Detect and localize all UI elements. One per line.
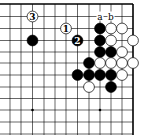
white-stone	[128, 58, 139, 69]
black-stone	[95, 35, 106, 46]
move-number: 1	[63, 24, 69, 34]
go-board-diagram: 312 ab	[0, 0, 142, 135]
black-stone	[72, 70, 83, 81]
black-stone	[95, 23, 106, 34]
black-stone	[84, 58, 95, 69]
move-number: 2	[74, 36, 80, 46]
white-stone	[106, 35, 117, 46]
white-stone	[117, 23, 128, 34]
star-point	[99, 109, 102, 112]
black-stone	[106, 82, 117, 93]
move-number: 3	[29, 12, 35, 22]
black-stone	[106, 47, 117, 58]
white-stone	[117, 47, 128, 58]
white-stone	[84, 82, 95, 93]
black-stone	[27, 35, 38, 46]
star-point	[31, 109, 34, 112]
point-label-b: b	[108, 12, 114, 22]
white-stone: 1	[61, 23, 72, 34]
black-stone	[106, 70, 117, 81]
black-stone	[95, 47, 106, 58]
white-stone	[128, 35, 139, 46]
white-stone: 3	[27, 11, 38, 22]
point-label-a: a	[97, 12, 103, 22]
white-stone	[106, 23, 117, 34]
black-stone: 2	[72, 35, 83, 46]
white-stone	[95, 58, 106, 69]
white-stone	[106, 58, 117, 69]
black-stone	[84, 70, 95, 81]
white-stone	[117, 70, 128, 81]
black-stone	[95, 70, 106, 81]
white-stone	[117, 58, 128, 69]
